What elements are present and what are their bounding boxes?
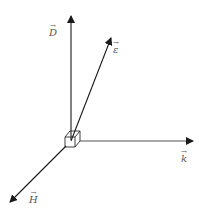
- vector-diagram: [0, 0, 199, 214]
- vector-h-line: [10, 146, 66, 202]
- origin-cube-icon: [65, 131, 80, 147]
- label-d: → D: [49, 28, 57, 38]
- label-h: → H: [29, 195, 38, 205]
- vector-arrow-icon: →: [29, 190, 38, 197]
- vector-epsilon-line: [71, 38, 111, 141]
- label-k: → k: [181, 154, 187, 164]
- vector-arrow-icon: →: [49, 23, 57, 30]
- label-epsilon: → ε: [113, 45, 118, 55]
- vector-arrow-icon: →: [181, 149, 187, 156]
- vector-arrow-icon: →: [113, 40, 118, 47]
